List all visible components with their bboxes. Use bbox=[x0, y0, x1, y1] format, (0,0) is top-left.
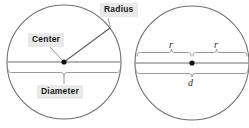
radius-callout-label: Radius bbox=[100, 3, 138, 17]
figure-canvas: Radius Center Diameter r r d bbox=[0, 0, 249, 128]
radius-right-brace bbox=[193, 49, 247, 56]
radius-left-brace bbox=[137, 49, 191, 56]
left-radius-line bbox=[64, 28, 110, 62]
right-center-dot bbox=[189, 60, 194, 65]
radius-left-symbol-label: r bbox=[169, 39, 173, 50]
left-center-dot bbox=[61, 59, 66, 64]
left-circle-group bbox=[7, 5, 121, 119]
center-callout-label: Center bbox=[28, 33, 64, 47]
diameter-symbol-label: d bbox=[188, 77, 193, 88]
center-leader-line bbox=[50, 47, 63, 61]
diameter-callout-label: Diameter bbox=[37, 85, 83, 99]
right-circle-group bbox=[135, 6, 249, 120]
right-diameter-brace bbox=[136, 70, 248, 77]
circle-diagram-svg bbox=[0, 0, 249, 128]
left-diameter-brace bbox=[8, 69, 120, 76]
radius-right-symbol-label: r bbox=[214, 39, 218, 50]
